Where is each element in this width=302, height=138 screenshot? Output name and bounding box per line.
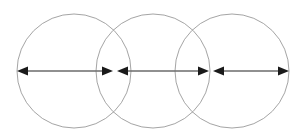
background-rect: [0, 0, 302, 138]
overlapping-circles-diagram: Three overlapping circles with double-he…: [0, 0, 302, 138]
figure-canvas: Three overlapping circles with double-he…: [0, 0, 302, 138]
